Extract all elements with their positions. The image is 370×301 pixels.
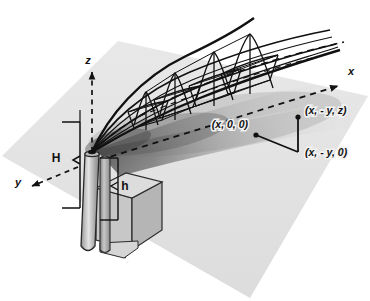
dimension-h-label: h [121, 179, 128, 193]
label-point-x-negy-z: (x, - y, z) [305, 104, 347, 116]
dimension-H-label: H [52, 151, 61, 165]
label-point-x-negy-0: (x, - y, 0) [305, 146, 348, 158]
diagram-canvas: z y x [0, 0, 370, 301]
label-point-x-0-0: (x, 0, 0) [212, 118, 249, 130]
smokestack [81, 150, 110, 253]
axis-y-label: y [14, 176, 22, 188]
axis-z-label: z [84, 54, 91, 66]
axis-x-label: x [347, 65, 355, 77]
plume-dispersion-figure: z y x [0, 0, 370, 301]
ground-plane [2, 41, 368, 298]
